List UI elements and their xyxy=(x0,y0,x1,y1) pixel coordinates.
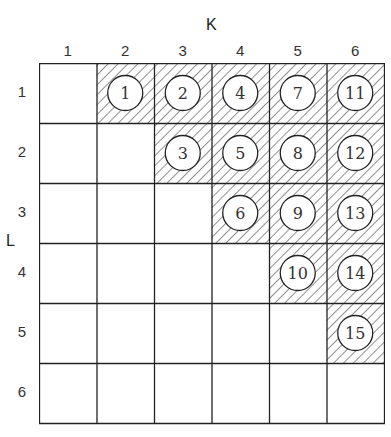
cell-number: 14 xyxy=(345,264,365,283)
col-label-4: 4 xyxy=(230,42,250,59)
hatched-cell-4-5: 10 xyxy=(269,243,327,303)
row-axis-title: L xyxy=(6,232,15,250)
hatched-cell-3-4: 6 xyxy=(212,183,270,243)
col-label-5: 5 xyxy=(288,42,308,59)
hatched-cell-1-5: 7 xyxy=(269,63,327,123)
hatched-cell-3-5: 9 xyxy=(269,183,327,243)
hatched-cell-2-5: 8 xyxy=(269,123,327,183)
row-label-3: 3 xyxy=(12,203,32,220)
hatched-cell-2-4: 5 xyxy=(212,123,270,183)
cell-number: 5 xyxy=(235,144,245,163)
row-label-2: 2 xyxy=(12,143,32,160)
cell-number: 3 xyxy=(178,144,188,163)
matrix-grid: 124711358126913101415 xyxy=(39,63,385,425)
cell-number: 9 xyxy=(293,204,303,223)
hatched-cell-2-3: 3 xyxy=(154,123,212,183)
hatched-cell-3-6: 13 xyxy=(327,183,385,243)
col-label-2: 2 xyxy=(115,42,135,59)
col-label-6: 6 xyxy=(345,42,365,59)
hatched-cell-4-6: 14 xyxy=(327,243,385,303)
row-label-4: 4 xyxy=(12,263,32,280)
cell-number: 8 xyxy=(293,144,303,163)
hatched-cell-2-6: 12 xyxy=(327,123,385,183)
cell-number: 13 xyxy=(345,204,365,223)
hatched-cell-1-4: 4 xyxy=(212,63,270,123)
hatched-cell-5-6: 15 xyxy=(327,303,385,363)
cell-number: 7 xyxy=(293,84,303,103)
hatched-cell-1-6: 11 xyxy=(327,63,385,123)
row-label-1: 1 xyxy=(12,83,32,100)
col-label-3: 3 xyxy=(173,42,193,59)
col-label-1: 1 xyxy=(58,42,78,59)
cell-number: 6 xyxy=(235,204,245,223)
cell-number: 12 xyxy=(345,144,365,163)
row-label-6: 6 xyxy=(12,383,32,400)
cell-number: 11 xyxy=(345,84,365,103)
hatched-cell-1-3: 2 xyxy=(154,63,212,123)
row-label-5: 5 xyxy=(12,323,32,340)
cell-number: 15 xyxy=(345,324,365,343)
cell-number: 1 xyxy=(120,84,130,103)
cell-number: 4 xyxy=(235,84,245,103)
col-axis-title: K xyxy=(206,16,217,34)
cell-number: 2 xyxy=(178,84,188,103)
hatched-cell-1-2: 1 xyxy=(97,63,155,123)
cell-number: 10 xyxy=(288,264,308,283)
